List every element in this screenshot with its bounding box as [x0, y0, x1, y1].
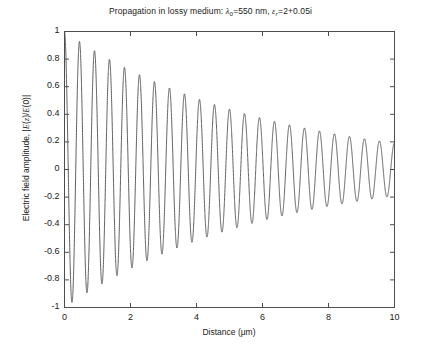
- ylabel-prefix: Electric field amplitude, |: [21, 129, 31, 221]
- x-axis-label: Distance (μm): [64, 327, 394, 337]
- plot-area: [0, 0, 421, 356]
- ylabel-open: (: [21, 121, 31, 124]
- ylabel-suffix: (0)|: [21, 95, 31, 108]
- x-tick-label: 4: [172, 312, 222, 322]
- ylabel-e2-symbol: E: [21, 107, 31, 112]
- figure-canvas: Propagation in lossy medium: λ0=550 nm, …: [0, 0, 421, 356]
- x-tick-label: 10: [370, 312, 420, 322]
- y-tick-label: 1: [16, 25, 60, 35]
- x-tick-label: 2: [106, 312, 156, 322]
- y-tick-label: -1: [16, 301, 60, 311]
- ylabel-e-symbol: E: [21, 124, 31, 129]
- y-tick-label: -0.8: [16, 273, 60, 283]
- x-tick-label: 8: [304, 312, 354, 322]
- x-tick-label: 0: [40, 312, 90, 322]
- ylabel-mid: )/: [21, 113, 31, 118]
- plot-frame: [65, 32, 395, 308]
- ylabel-z-symbol: z: [21, 118, 31, 121]
- y-axis-label: Electric field amplitude, |E(z)/E(0)|: [21, 58, 31, 258]
- x-tick-label: 6: [238, 312, 288, 322]
